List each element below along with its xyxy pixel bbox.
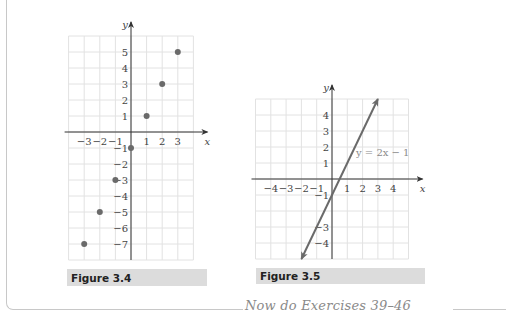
exercises-note: Now do Exercises 39–46: [245, 298, 411, 313]
y-tick-label: 2: [323, 142, 329, 153]
data-point: [112, 177, 118, 183]
data-point: [144, 113, 150, 119]
x-tick-label: 1: [143, 136, 149, 147]
tick-labels: xy−4−3−2−112344321−1−3−4: [263, 82, 425, 249]
y-tick-label: −7: [113, 239, 128, 250]
x-tick-label: 2: [159, 136, 165, 147]
y-tick-label: 4: [122, 63, 128, 74]
figure-3-4-graph: xy−3−2−112354321−1−2−3−4−5−6−7: [65, 19, 211, 260]
figure-3-5-caption: Figure 3.5: [256, 268, 425, 284]
figure-3-4-caption: Figure 3.4: [67, 269, 207, 286]
line-segment: [340, 99, 378, 179]
y-tick-label: −1: [314, 190, 329, 201]
y-tick-label: −2: [113, 159, 128, 170]
y-tick-label: 2: [122, 95, 128, 106]
data-point: [159, 81, 165, 87]
tick-labels: xy−3−2−112354321−1−2−3−4−5−6−7: [77, 19, 211, 250]
x-tick-label: 3: [175, 136, 181, 147]
x-tick-label: −2: [92, 136, 107, 147]
y-tick-label: 1: [323, 158, 329, 169]
figure-3-5-graph: xy−4−3−2−112344321−1−3−4 y = 2x − 1: [252, 82, 426, 259]
y-tick-label: −1: [113, 143, 128, 154]
x-tick-label: 4: [390, 183, 396, 194]
y-tick-label: −4: [314, 238, 329, 249]
data-point: [128, 145, 134, 151]
x-tick-label: 1: [344, 183, 350, 194]
data-point: [97, 209, 103, 215]
x-tick-label: 3: [375, 183, 381, 194]
y-tick-label: −4: [113, 191, 128, 202]
y-axis-label: y: [121, 19, 128, 30]
x-tick-label: −3: [77, 136, 92, 147]
y-axis-label: y: [322, 82, 329, 93]
x-axis-label: x: [420, 183, 426, 194]
y-tick-label: −5: [113, 207, 128, 218]
x-tick-label: −3: [279, 183, 294, 194]
x-axis-label: x: [205, 136, 211, 147]
x-tick-label: −2: [294, 183, 309, 194]
y-tick-label: 3: [122, 79, 128, 90]
y-tick-label: 1: [122, 111, 128, 122]
data-point: [81, 241, 87, 247]
equation-label: y = 2x − 1: [355, 147, 410, 158]
data-point: [175, 49, 181, 55]
axes: [252, 85, 423, 259]
y-tick-label: −6: [113, 223, 128, 234]
y-tick-label: 5: [122, 47, 128, 58]
y-tick-label: 3: [323, 126, 329, 137]
y-tick-label: 4: [323, 110, 329, 121]
x-tick-label: −4: [263, 183, 278, 194]
x-tick-label: 2: [359, 183, 365, 194]
